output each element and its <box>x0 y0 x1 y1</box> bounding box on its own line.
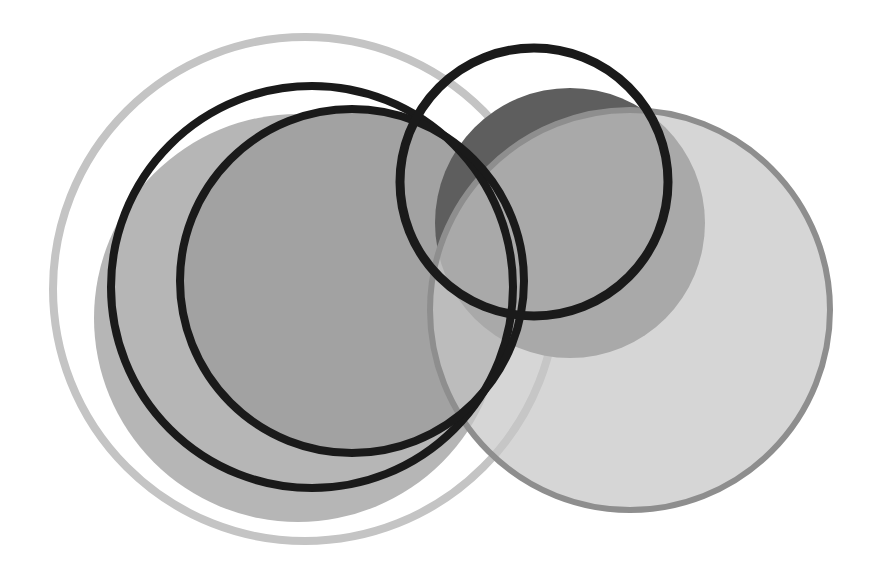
circles-canvas <box>0 0 876 573</box>
overlapping-circles-artwork <box>0 0 876 573</box>
